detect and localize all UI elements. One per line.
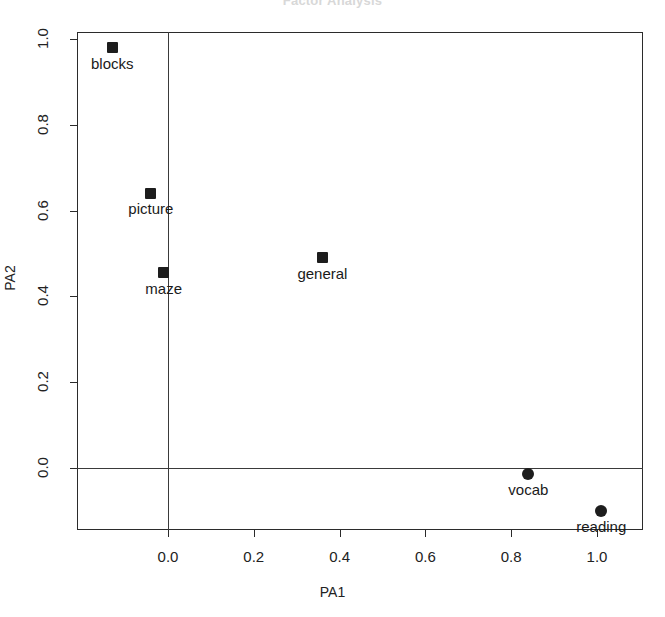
y-tick-mark xyxy=(70,296,77,297)
y-tick-mark xyxy=(70,39,77,40)
y-tick-label: 0.0 xyxy=(34,448,51,488)
chart-title: Factor Analysis xyxy=(0,0,665,8)
x-tick-label: 0.6 xyxy=(395,548,455,565)
data-point-label: reading xyxy=(576,518,626,535)
horizontal-reference-line xyxy=(77,468,643,469)
x-tick-mark xyxy=(425,530,426,537)
x-tick-label: 0.2 xyxy=(224,548,284,565)
x-tick-mark xyxy=(340,530,341,537)
y-tick-mark xyxy=(70,125,77,126)
scatter-plot-figure: Factor Analysis 0.00.20.40.60.81.0 0.00.… xyxy=(0,0,665,617)
x-tick-label: 1.0 xyxy=(567,548,627,565)
x-tick-label: 0.4 xyxy=(310,548,370,565)
x-tick-label: 0.8 xyxy=(481,548,541,565)
x-axis-label: PA1 xyxy=(0,584,665,600)
y-tick-label: 0.2 xyxy=(34,362,51,402)
data-point-marker xyxy=(107,42,118,53)
data-point-label: vocab xyxy=(508,481,548,498)
y-tick-mark xyxy=(70,468,77,469)
data-point-label: blocks xyxy=(91,55,134,72)
y-tick-mark xyxy=(70,211,77,212)
x-tick-mark xyxy=(511,530,512,537)
y-tick-label: 1.0 xyxy=(34,19,51,59)
y-axis-label: PA2 xyxy=(2,248,18,308)
data-point-marker xyxy=(317,252,328,263)
data-point-label: general xyxy=(297,265,347,282)
y-tick-label: 0.4 xyxy=(34,276,51,316)
y-tick-mark xyxy=(70,382,77,383)
x-tick-mark xyxy=(254,530,255,537)
x-tick-label: 0.0 xyxy=(138,548,198,565)
data-point-marker xyxy=(145,188,156,199)
x-tick-mark xyxy=(168,530,169,537)
data-point-marker xyxy=(158,267,169,278)
y-tick-label: 0.8 xyxy=(34,104,51,144)
data-point-label: maze xyxy=(145,280,182,297)
y-tick-label: 0.6 xyxy=(34,190,51,230)
data-point-label: picture xyxy=(128,200,173,217)
